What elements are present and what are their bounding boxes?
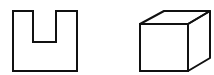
figure-canvas [0, 0, 214, 75]
